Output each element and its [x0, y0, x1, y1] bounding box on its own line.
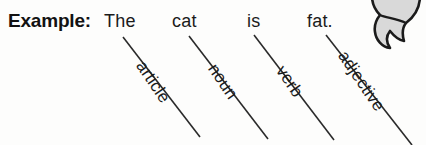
cat-icon: [362, 0, 426, 50]
